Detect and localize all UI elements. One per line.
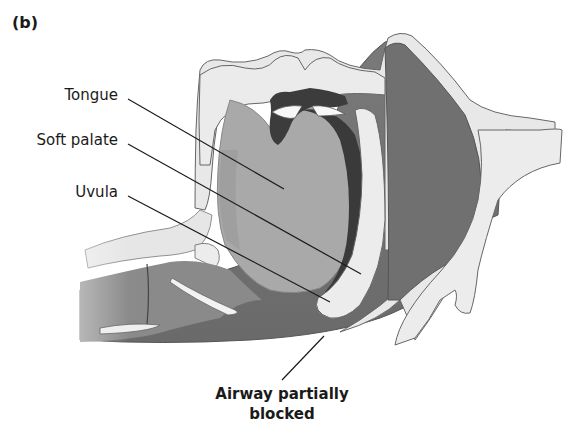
airway-label-line2: blocked bbox=[182, 404, 382, 424]
airway-label-line1: Airway partially bbox=[182, 384, 382, 404]
soft-palate-label: Soft palate bbox=[0, 131, 118, 149]
panel-label: (b) bbox=[12, 13, 38, 32]
uvula-label: Uvula bbox=[0, 183, 118, 201]
tongue-label: Tongue bbox=[0, 86, 118, 104]
left-fade bbox=[0, 220, 130, 360]
airway-anatomy-diagram bbox=[0, 0, 564, 434]
airway-leader-line bbox=[282, 336, 324, 380]
airway-label: Airway partially blocked bbox=[182, 384, 382, 424]
